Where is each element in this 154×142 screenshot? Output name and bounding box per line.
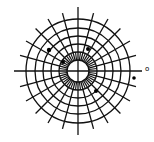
data-marker xyxy=(132,76,136,80)
axis-label-right: o xyxy=(145,66,149,73)
data-marker xyxy=(61,60,65,64)
data-marker xyxy=(94,89,98,93)
inner-spoke xyxy=(76,52,77,60)
inner-spoke xyxy=(79,52,80,60)
grid-spoke xyxy=(86,29,121,64)
data-marker xyxy=(47,48,51,52)
grid-spoke xyxy=(36,79,71,114)
data-marker xyxy=(86,47,90,51)
inner-spoke xyxy=(59,72,67,73)
polar-grid xyxy=(0,0,154,142)
grid-spoke xyxy=(86,79,121,114)
inner-spoke xyxy=(76,82,77,90)
polar-grid-diagram: o xyxy=(0,0,154,142)
inner-spoke xyxy=(89,72,97,73)
inner-spoke xyxy=(89,69,97,70)
grid-spoke xyxy=(36,29,71,64)
inner-spoke xyxy=(79,82,80,90)
inner-spoke xyxy=(59,69,67,70)
